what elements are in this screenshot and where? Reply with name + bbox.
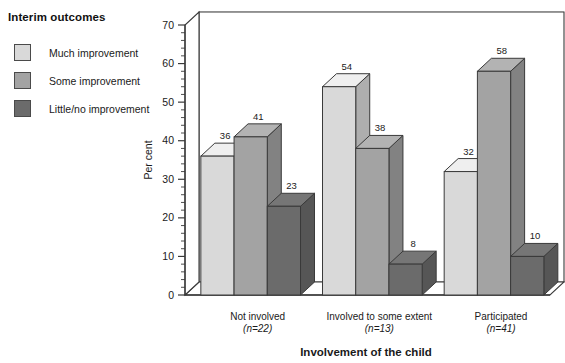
svg-text:38: 38 <box>375 122 386 133</box>
svg-text:Not involved: Not involved <box>230 311 285 322</box>
svg-text:0: 0 <box>168 289 174 301</box>
legend-label-some-improvement: Some improvement <box>49 75 140 87</box>
svg-text:50: 50 <box>162 96 174 108</box>
svg-text:(n=41): (n=41) <box>486 323 515 334</box>
svg-text:40: 40 <box>162 134 174 146</box>
svg-text:23: 23 <box>286 180 297 191</box>
svg-text:30: 30 <box>162 173 174 185</box>
svg-text:36: 36 <box>220 130 231 141</box>
svg-text:(n=22): (n=22) <box>243 323 272 334</box>
legend-item-much-improvement: Much improvement <box>14 44 138 61</box>
legend-item-little-no-improvement: Little/no improvement <box>14 100 149 117</box>
legend-title: Interim outcomes <box>8 11 105 23</box>
svg-text:32: 32 <box>463 146 474 157</box>
svg-text:10: 10 <box>162 250 174 262</box>
svg-text:Involved to some extent: Involved to some extent <box>327 311 433 322</box>
x-axis-category-labels: Not involved(n=22)Involved to some exten… <box>230 311 527 334</box>
legend-label-little-no-improvement: Little/no improvement <box>49 103 149 115</box>
svg-text:60: 60 <box>162 57 174 69</box>
svg-text:Involvement of the child: Involvement of the child <box>300 346 432 358</box>
svg-text:70: 70 <box>162 19 174 31</box>
chart-page: Interim outcomes Much improvement Some i… <box>0 0 565 363</box>
legend-swatch-some-improvement <box>14 72 31 89</box>
legend-swatch-much-improvement <box>14 44 31 61</box>
svg-text:Participated: Participated <box>475 311 528 322</box>
svg-text:10: 10 <box>530 230 541 241</box>
svg-text:(n=13): (n=13) <box>365 323 394 334</box>
legend-swatch-little-no-improvement <box>14 100 31 117</box>
legend-label-much-improvement: Much improvement <box>49 47 138 59</box>
svg-text:58: 58 <box>496 45 507 56</box>
svg-text:54: 54 <box>342 61 353 72</box>
legend-item-some-improvement: Some improvement <box>14 72 140 89</box>
svg-text:8: 8 <box>411 238 416 249</box>
svg-text:Per cent: Per cent <box>142 140 154 179</box>
svg-text:20: 20 <box>162 211 174 223</box>
y-axis-ticks: 010203040506070 <box>162 19 185 301</box>
svg-text:41: 41 <box>253 111 264 122</box>
